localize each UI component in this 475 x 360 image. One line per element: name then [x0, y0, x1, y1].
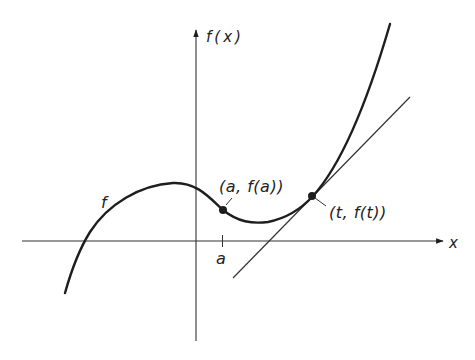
point-t [308, 192, 316, 200]
leader-a [226, 198, 232, 205]
point-a-label: (a, f(a)) [219, 177, 284, 196]
x-axis-label: x [448, 234, 458, 252]
point-t-label: (t, f(t)) [329, 203, 387, 222]
function-curve [65, 24, 390, 293]
tick-label-a: a [216, 249, 226, 268]
function-graph-diagram: x f(x) a f (a, f(a)) (t, f(t)) [0, 0, 475, 360]
curve-label: f [101, 193, 109, 212]
point-a [219, 206, 227, 214]
leader-t [315, 198, 326, 206]
y-axis-label: f(x) [206, 28, 244, 46]
